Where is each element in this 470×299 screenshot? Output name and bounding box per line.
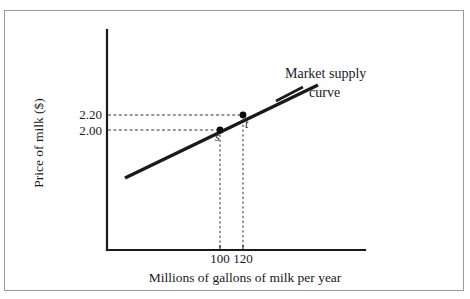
y-tick-label-220: 2.20 <box>66 107 102 123</box>
y-axis-label: Price of milk ($) <box>31 73 47 213</box>
market-supply-curve-annotation: Market supply curve <box>285 64 366 102</box>
point-label-t: t <box>245 117 248 132</box>
annotation-line-1: Market supply <box>285 66 366 81</box>
x-tick-label-120: 120 <box>226 251 260 267</box>
point-label-s: s <box>215 130 220 145</box>
supply-curve-figure: Price of milk ($) Millions of gallons of… <box>0 0 470 299</box>
annotation-line-2: curve <box>285 83 366 102</box>
y-tick-label-200: 2.00 <box>66 123 102 139</box>
x-axis-label: Millions of gallons of milk per year <box>105 270 385 286</box>
